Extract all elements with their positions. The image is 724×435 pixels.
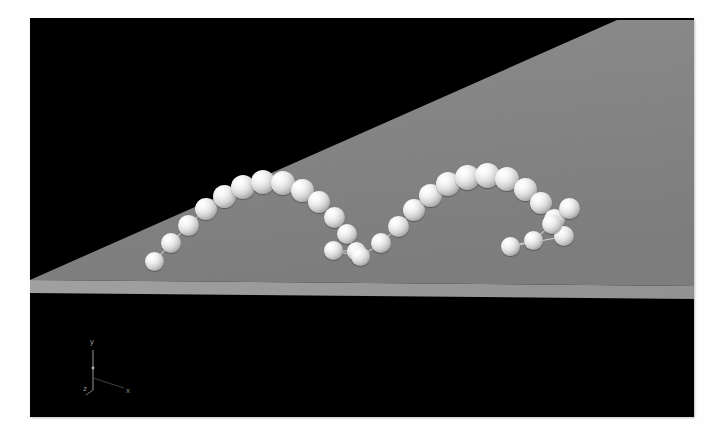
render-viewport[interactable]: y z x xyxy=(30,18,694,417)
axis-label-z: z xyxy=(83,385,87,393)
trajectory-ball[interactable] xyxy=(161,233,181,253)
trajectory-ball[interactable] xyxy=(178,215,199,236)
axis-label-x: x xyxy=(126,387,130,395)
trajectory-ball[interactable] xyxy=(501,237,520,256)
trajectory-ball[interactable] xyxy=(371,233,391,253)
axis-label-y: y xyxy=(90,338,94,346)
trajectory-ball[interactable] xyxy=(388,216,409,237)
axis-triad-lines xyxy=(58,338,168,408)
screenshot-root: y z x xyxy=(0,0,724,435)
trajectory-ball[interactable] xyxy=(324,241,343,260)
trajectory-ball[interactable] xyxy=(542,214,562,234)
trajectory-ball[interactable] xyxy=(559,198,580,219)
trajectory-ball[interactable] xyxy=(145,252,164,271)
trajectory-ball[interactable] xyxy=(524,231,543,250)
coordinate-axis-indicator: y z x xyxy=(58,338,168,408)
trajectory-ball[interactable] xyxy=(337,224,357,244)
trajectory-ball[interactable] xyxy=(351,247,370,266)
